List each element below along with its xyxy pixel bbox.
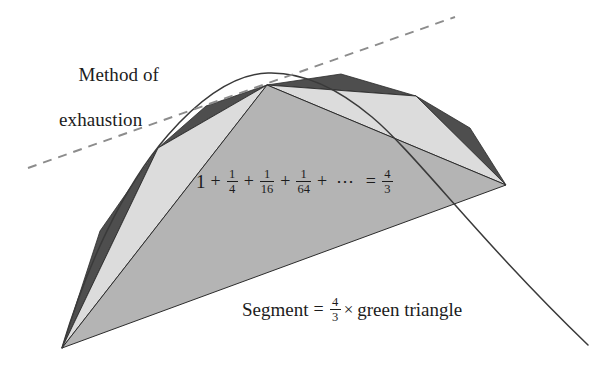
series-term-1: 1 bbox=[196, 171, 206, 193]
series-plus-2: + bbox=[239, 171, 259, 192]
series-equals: = bbox=[361, 171, 381, 192]
series-term-3-denominator: 16 bbox=[260, 182, 275, 196]
method-of-exhaustion-figure: Method of exhaustion 1 + 1 4 + 1 16 + 1 … bbox=[0, 0, 614, 366]
series-sum-numerator: 4 bbox=[383, 168, 391, 182]
segment-caption-subject: Segment bbox=[242, 299, 309, 321]
segment-caption-times: × bbox=[342, 300, 358, 320]
segment-caption-object: green triangle bbox=[357, 299, 462, 321]
series-plus-4: + bbox=[312, 171, 332, 192]
segment-caption-ratio-denominator: 3 bbox=[331, 310, 339, 324]
series-term-4-denominator: 64 bbox=[296, 182, 311, 196]
page-title-line-2: exhaustion bbox=[59, 109, 159, 131]
series-sum-fraction: 4 3 bbox=[382, 168, 393, 196]
series-plus-1: + bbox=[206, 171, 226, 192]
series-term-3-numerator: 1 bbox=[263, 168, 271, 182]
segment-caption-equals: = bbox=[309, 299, 329, 320]
series-term-4-fraction: 1 64 bbox=[296, 168, 311, 196]
series-term-2-fraction: 1 4 bbox=[227, 168, 238, 196]
page-title: Method of exhaustion bbox=[59, 42, 159, 176]
segment-caption: Segment = 4 3 × green triangle bbox=[242, 296, 462, 324]
series-term-2-denominator: 4 bbox=[228, 182, 236, 196]
series-sum-denominator: 3 bbox=[383, 182, 391, 196]
series-formula: 1 + 1 4 + 1 16 + 1 64 + ⋯ = 4 3 bbox=[196, 168, 394, 196]
series-term-3-fraction: 1 16 bbox=[260, 168, 275, 196]
series-plus-3: + bbox=[275, 171, 295, 192]
segment-caption-ratio-numerator: 4 bbox=[331, 296, 339, 310]
series-term-4-numerator: 1 bbox=[300, 168, 308, 182]
series-term-2-numerator: 1 bbox=[228, 168, 236, 182]
series-ellipsis: ⋯ bbox=[332, 171, 361, 192]
page-title-line-1: Method of bbox=[78, 64, 159, 85]
segment-caption-ratio-fraction: 4 3 bbox=[330, 296, 341, 324]
